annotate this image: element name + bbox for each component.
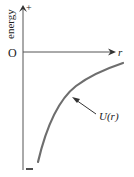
origin-label: O [8, 46, 17, 60]
x-axis-label: r [118, 46, 123, 58]
positive-sign: + [26, 2, 32, 13]
y-axis-label: energy [4, 9, 16, 39]
energy-diagram: energy + O r U(r) [0, 0, 134, 177]
curve-label: U(r) [99, 110, 119, 123]
curve-pointer-line [76, 100, 96, 114]
